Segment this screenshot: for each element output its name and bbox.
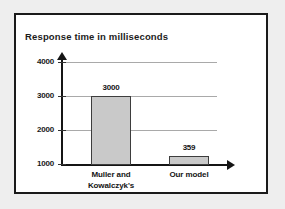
y-axis-line: [61, 59, 63, 166]
y-axis-arrow-icon: [57, 52, 67, 60]
bar-value-our-model: 359: [169, 143, 209, 152]
plot-area: 4000 3000 2000 1000 3000 359 Muller and …: [16, 15, 266, 192]
gridline-3000: [62, 96, 217, 97]
y-tick-label-3000: 3000: [14, 91, 54, 100]
tick-label-wrap-3000: 3000: [16, 91, 54, 101]
chart-frame: Response time in milliseconds 4000 3000: [14, 13, 268, 194]
tick-mark-2000: [58, 130, 66, 131]
x-category-label-line-1: Our model: [156, 170, 222, 181]
gridline-4000: [62, 62, 217, 63]
y-tick-label-4000: 4000: [14, 57, 54, 66]
x-category-label-muller-and-kowalczyks: Muller and Kowalczyk's: [74, 170, 148, 191]
bar-our-model[interactable]: [169, 156, 209, 165]
y-tick-label-2000: 2000: [14, 125, 54, 134]
x-category-label-our-model: Our model: [156, 170, 222, 181]
x-category-label-line-2: Kowalczyk's: [74, 181, 148, 192]
tick-mark-3000: [58, 96, 66, 97]
tick-label-wrap-4000: 4000: [16, 57, 54, 67]
tick-mark-4000: [58, 62, 66, 63]
bar-value-muller-and-kowalczyks: 3000: [91, 83, 131, 92]
x-category-label-line-1: Muller and: [74, 170, 148, 181]
tick-mark-1000: [58, 164, 66, 165]
y-tick-label-1000: 1000: [14, 159, 54, 168]
tick-label-wrap-1000: 1000: [16, 159, 54, 169]
bar-muller-and-kowalczyks[interactable]: [91, 96, 131, 165]
x-axis-arrow-icon: [227, 160, 235, 170]
tick-label-wrap-2000: 2000: [16, 125, 54, 135]
gridline-2000: [62, 130, 217, 131]
page-background: Response time in milliseconds 4000 3000: [0, 0, 285, 209]
